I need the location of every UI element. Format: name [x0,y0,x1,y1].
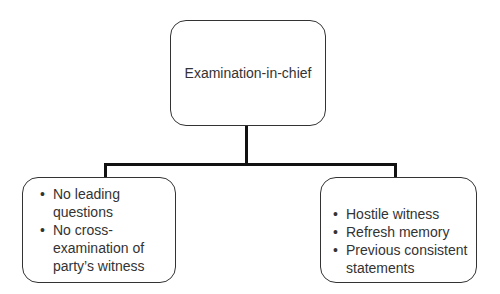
child-node-right: Hostile witness Refresh memory Previous … [320,177,477,283]
connector-trunk [245,126,248,166]
list-item: No leading questions [40,185,163,221]
left-list: No leading questions No cross-examinatio… [40,185,171,275]
connector-right-leg [394,163,397,178]
list-item: Hostile witness [333,205,474,223]
connector-bar [104,163,397,166]
root-node: Examination-in-chief [170,20,326,126]
root-label: Examination-in-chief [185,65,312,81]
connector-left-leg [104,163,107,178]
list-item: No cross-examination of party’s witness [40,221,171,275]
right-list: Hostile witness Refresh memory Previous … [333,205,474,277]
list-item: Previous consistent statements [333,241,474,277]
child-node-left: No leading questions No cross-examinatio… [22,177,176,283]
list-item: Refresh memory [333,223,474,241]
